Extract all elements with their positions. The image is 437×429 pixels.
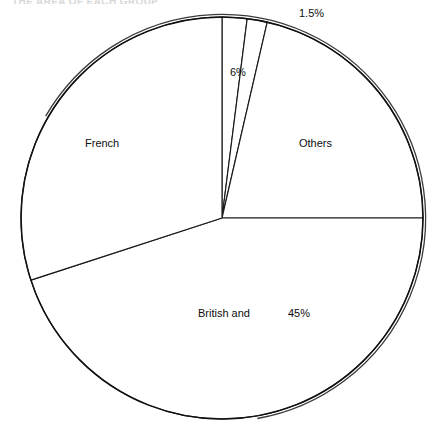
pie-chart-svg[interactable] [0,0,437,429]
one-five-label: 1.5% [299,7,324,19]
six-percent-label: 6% [230,66,246,78]
pie-slices-group [21,17,423,419]
forty-five-label: 45% [288,307,310,319]
french-label: French [85,137,119,149]
others-label: Others [299,137,332,149]
british-label: British and [198,307,250,319]
pie-chart-figure: THE AREA OF EACH GROUP French6%1.5%Other… [0,0,437,429]
